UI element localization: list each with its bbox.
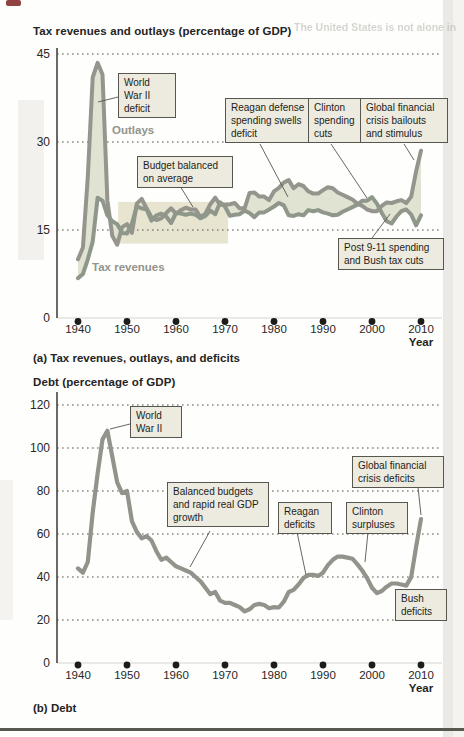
annotation-reagan-deficit: Reagan defense spending swells deficit bbox=[225, 98, 315, 143]
x-tick-dot bbox=[418, 318, 425, 325]
annotation-leader-line bbox=[404, 144, 414, 160]
x-tick-dot bbox=[418, 662, 425, 669]
x-tick-dot bbox=[173, 318, 180, 325]
x-tick-dot bbox=[124, 662, 131, 669]
outlays-series-label: Outlays bbox=[112, 124, 154, 136]
panel-a-title: Tax revenues and outlays (percentage of … bbox=[33, 25, 292, 37]
panel-a-caption: (a) Tax revenues, outlays, and deficits bbox=[33, 352, 240, 364]
x-tick-dot bbox=[75, 318, 82, 325]
x-tick-dot bbox=[124, 318, 131, 325]
annotation-leader-line bbox=[110, 424, 130, 429]
tax-revenues-series-label: Tax revenues bbox=[92, 261, 165, 273]
x-tick-dot bbox=[222, 662, 229, 669]
annotation-bush-deficits: Bush deficits bbox=[395, 589, 447, 621]
annotation-post-911: Post 9-11 spending and Bush tax cuts bbox=[338, 238, 444, 270]
annotation-leader-line bbox=[190, 531, 210, 567]
x-tick-dot bbox=[320, 662, 327, 669]
annotation-balanced-budgets: Balanced budgets and rapid real GDP grow… bbox=[167, 482, 269, 527]
annotation-budget-balanced: Budget balanced on average bbox=[137, 156, 233, 188]
annotation-reagan-deficits: Reagan deficits bbox=[278, 502, 332, 534]
annotation-wwii-deficit: World War II deficit bbox=[118, 73, 176, 118]
x-tick-dot bbox=[271, 318, 278, 325]
x-tick-dot bbox=[271, 662, 278, 669]
annotation-gfc-deficits: Global financial crisis deficits bbox=[352, 456, 444, 488]
annotation-leader-line bbox=[372, 214, 390, 238]
panel-b-caption: (b) Debt bbox=[33, 702, 76, 714]
annotation-leader-line bbox=[418, 487, 421, 515]
x-tick-dot bbox=[320, 318, 327, 325]
x-tick-dot bbox=[369, 318, 376, 325]
panel-b-title: Debt (percentage of GDP) bbox=[33, 376, 175, 388]
x-tick-dot bbox=[369, 662, 376, 669]
x-tick-dot bbox=[173, 662, 180, 669]
annotation-clinton-surpluses: Clinton surpluses bbox=[346, 502, 408, 534]
annotation-wwii-debt: World War II bbox=[130, 406, 182, 438]
annotation-leader-line bbox=[297, 532, 306, 575]
page-bottom-rule bbox=[0, 728, 464, 731]
x-tick-dot bbox=[222, 318, 229, 325]
x-tick-dot bbox=[75, 662, 82, 669]
textbook-figure: The United States is not alone in 453015… bbox=[0, 0, 464, 737]
annotation-leader-line bbox=[365, 532, 368, 562]
annotation-gfc-bailouts: Global financial crisis bailouts and sti… bbox=[360, 98, 448, 143]
